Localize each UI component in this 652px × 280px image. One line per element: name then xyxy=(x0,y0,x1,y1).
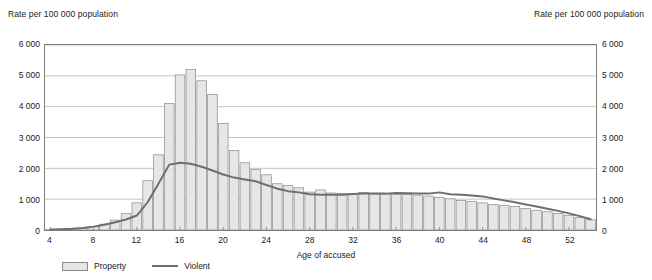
bar xyxy=(413,195,423,230)
right-axis-title: Rate per 100 000 population xyxy=(534,9,644,19)
x-tick-label: 20 xyxy=(218,236,227,245)
bar xyxy=(575,217,585,230)
y-tick-label-left: 4 000 xyxy=(19,102,40,111)
bar xyxy=(456,200,466,230)
bar xyxy=(532,210,542,230)
bar-swatch-icon xyxy=(62,262,88,271)
plot-canvas xyxy=(45,45,596,230)
y-tick-label-right: 2 000 xyxy=(602,165,623,174)
y-tick-label-right: 5 000 xyxy=(602,71,623,80)
x-tick-label: 36 xyxy=(392,236,401,245)
y-tick-label-right: 1 000 xyxy=(602,196,623,205)
legend-item-violent: Violent xyxy=(152,261,210,271)
x-tick-label: 44 xyxy=(478,236,487,245)
legend-label-violent: Violent xyxy=(184,261,210,271)
bar xyxy=(478,203,488,230)
bar xyxy=(326,193,336,230)
bar xyxy=(154,155,164,230)
x-tick-label: 12 xyxy=(131,236,140,245)
y-tick-label-right: 6 000 xyxy=(602,40,623,49)
legend-item-property: Property xyxy=(62,261,126,271)
bar xyxy=(359,192,369,230)
y-tick-label-right: 3 000 xyxy=(602,134,623,143)
bar xyxy=(272,184,282,230)
rate-by-age-chart: Rate per 100 000 population Rate per 100… xyxy=(0,0,652,280)
left-axis-title: Rate per 100 000 population xyxy=(8,9,118,19)
bar xyxy=(121,214,131,230)
x-tick-label: 16 xyxy=(175,236,184,245)
bar xyxy=(521,208,531,230)
bar xyxy=(208,95,218,230)
bar xyxy=(586,220,596,230)
bar xyxy=(218,123,228,230)
bar xyxy=(467,201,477,230)
x-tick-label: 40 xyxy=(435,236,444,245)
y-tick-label-right: 0 xyxy=(602,227,607,236)
bar xyxy=(348,194,358,230)
x-tick-label: 8 xyxy=(90,236,95,245)
bar xyxy=(489,204,499,230)
bar xyxy=(424,196,434,230)
x-axis-label: Age of accused xyxy=(0,250,652,260)
bar xyxy=(197,81,207,230)
legend-label-property: Property xyxy=(94,261,126,271)
bar xyxy=(240,163,250,230)
bar xyxy=(370,194,380,230)
bar xyxy=(175,75,185,230)
bar xyxy=(186,69,196,230)
bar xyxy=(164,104,174,230)
y-tick-label-left: 3 000 xyxy=(19,134,40,143)
y-tick-label-right: 4 000 xyxy=(602,102,623,111)
bar xyxy=(402,195,412,230)
y-tick-label-left: 6 000 xyxy=(19,40,40,49)
bar xyxy=(305,192,315,230)
x-tick-label: 24 xyxy=(262,236,271,245)
bar xyxy=(316,190,326,230)
bar xyxy=(229,150,239,230)
bar xyxy=(499,205,509,230)
y-tick-label-left: 0 xyxy=(35,227,40,236)
bar xyxy=(510,207,520,230)
bar xyxy=(553,213,563,230)
bar xyxy=(381,194,391,230)
chart-legend: Property Violent xyxy=(62,261,210,271)
bar xyxy=(251,170,261,230)
bar xyxy=(337,194,347,230)
plot-area xyxy=(44,44,597,231)
x-tick-label: 4 xyxy=(47,236,52,245)
x-tick-label: 52 xyxy=(565,236,574,245)
y-tick-label-left: 1 000 xyxy=(19,196,40,205)
bar xyxy=(391,194,401,230)
x-tick-label: 32 xyxy=(348,236,357,245)
bar xyxy=(294,188,304,230)
x-tick-label: 28 xyxy=(305,236,314,245)
x-tick-label: 48 xyxy=(522,236,531,245)
y-tick-label-left: 5 000 xyxy=(19,71,40,80)
line-swatch-icon xyxy=(152,265,178,267)
bar xyxy=(543,212,553,230)
y-tick-label-left: 2 000 xyxy=(19,165,40,174)
bar xyxy=(445,199,455,230)
bar xyxy=(435,197,445,230)
